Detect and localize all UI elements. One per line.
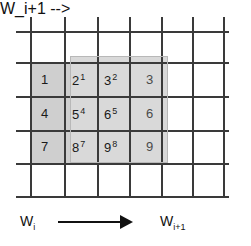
cell-number: 65	[104, 107, 117, 121]
cell-value: 8	[72, 140, 79, 155]
cell-value: 6	[146, 106, 153, 121]
cell-number: 87	[72, 140, 85, 154]
cell-number: 7	[41, 140, 48, 153]
cell-superscript: 5	[112, 106, 117, 116]
cell-number: 32	[104, 73, 117, 87]
grid-line-horizontal	[16, 163, 229, 165]
diagram-canvas: 121323454656787989 W_i+1 --> Wi Wi+1	[0, 0, 251, 246]
grid-line-vertical	[64, 17, 66, 196]
cell-number: 4	[41, 107, 48, 120]
cell-superscript: 4	[80, 106, 85, 116]
cell-number: 1	[41, 73, 48, 86]
cell-value: 3	[104, 73, 111, 88]
grid-line-vertical	[30, 17, 32, 196]
cell-number: 6	[146, 107, 153, 120]
axis-label-wi-sub: i	[33, 222, 35, 232]
cell-value: 4	[41, 106, 48, 121]
axis-label-wi-main: W	[20, 213, 33, 229]
grid-line-vertical	[192, 17, 194, 196]
direction-arrow-line	[58, 221, 120, 223]
cell-number: 21	[72, 73, 85, 87]
cell-number: 98	[104, 140, 117, 154]
axis-label-wi-plus-1-sub: i+1	[173, 222, 185, 232]
cell-value: 7	[41, 139, 48, 154]
cell-value: 6	[104, 107, 111, 122]
cell-superscript: 8	[112, 139, 117, 149]
grid-line-horizontal	[16, 196, 229, 198]
cell-number: 9	[146, 140, 153, 153]
grid-line-vertical	[223, 17, 225, 196]
grid-line-horizontal	[16, 31, 229, 33]
cell-value: 3	[146, 72, 153, 87]
cell-value: 5	[72, 107, 79, 122]
cell-number: 54	[72, 107, 85, 121]
axis-label-wi-plus-1-main: W	[160, 213, 173, 229]
cell-superscript: 7	[80, 139, 85, 149]
cell-value: 9	[146, 139, 153, 154]
direction-arrow-head	[120, 215, 133, 229]
cell-superscript: 2	[112, 72, 117, 82]
cell-value: 9	[104, 140, 111, 155]
cell-number: 3	[146, 73, 153, 86]
axis-label-wi: Wi	[20, 214, 35, 232]
axis-label-wi-plus-1: Wi+1	[160, 214, 185, 232]
cell-value: 1	[41, 72, 48, 87]
cell-value: 2	[72, 73, 79, 88]
cell-superscript: 1	[80, 72, 85, 82]
